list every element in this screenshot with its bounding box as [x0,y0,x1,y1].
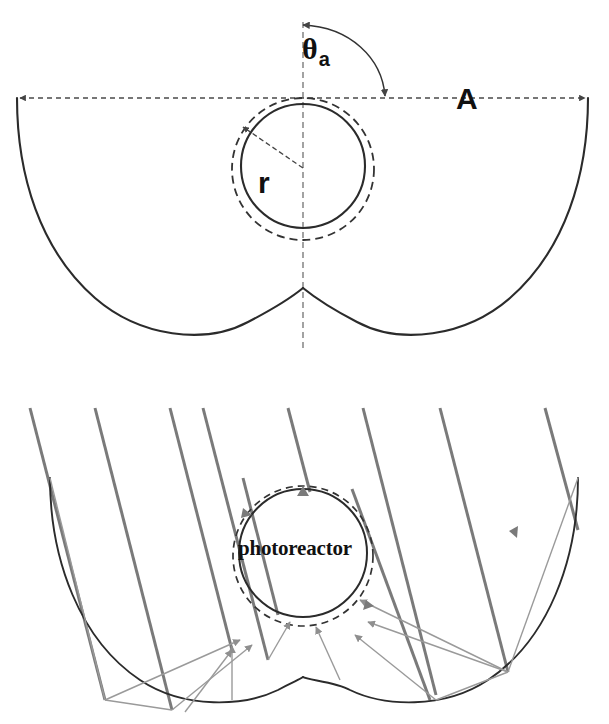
radius-label: r [258,168,270,198]
bottom-raytrace-diagram [30,408,578,712]
theta-subscript: a [319,48,330,70]
incident-ray [288,408,310,492]
reactor-strike-marker [509,526,518,538]
reflected-ray [368,622,508,672]
reflected-ray [436,672,508,700]
reactor-outer-envelope [232,98,374,240]
reflected-ray [105,700,172,710]
reflected-ray-group [50,478,578,712]
acceptance-angle-label: θa [302,34,329,64]
theta-glyph: θ [302,32,318,65]
incident-ray-continuation-group [243,478,430,700]
top-geometry-diagram [17,22,588,352]
photoreactor-label: photoreactor [238,538,352,559]
aperture-label: A [456,84,478,114]
reflected-ray [316,627,340,680]
radius-arrow [243,127,303,168]
reflector-wall-left [17,98,303,335]
incident-ray [95,408,172,710]
reflected-ray [268,622,290,660]
incident-ray [170,408,232,650]
reflected-ray [508,478,578,672]
figure-root: θa A r photoreactor [0,0,609,724]
reactor-strike-marker [297,486,309,496]
reflector-wall-right [303,478,578,702]
reflector-wall-right [303,98,588,335]
reflected-ray [50,478,105,700]
diagram-svg [0,0,609,724]
incident-ray [545,408,578,530]
incident-ray [440,408,508,672]
reflected-ray [360,600,508,672]
